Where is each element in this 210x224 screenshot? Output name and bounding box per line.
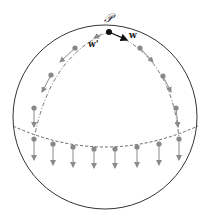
sphere-diagram bbox=[0, 0, 210, 224]
right-arc-vectors bbox=[137, 45, 178, 127]
sphere-outline bbox=[13, 25, 197, 209]
point-p bbox=[106, 29, 112, 35]
vector-w-label: w bbox=[129, 31, 137, 40]
right-meridian-path bbox=[109, 32, 179, 139]
equator-vectors bbox=[31, 136, 181, 168]
equator-path bbox=[13, 126, 198, 147]
vector-w-prime-label: w' bbox=[88, 40, 99, 49]
parallel-transport-diagram: 𝒫 w w' bbox=[0, 0, 210, 224]
point-p-label: 𝒫 bbox=[104, 12, 113, 24]
